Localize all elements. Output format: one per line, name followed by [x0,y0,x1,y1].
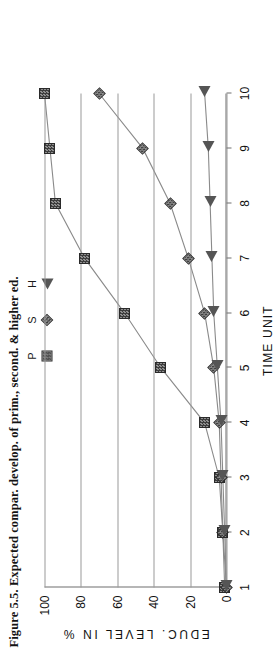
triangle-marker-icon [204,195,216,206]
legend-label-p: P [26,352,37,359]
x-axis-tick [226,202,231,203]
x-axis-tick [226,257,231,258]
data-point-h [202,142,214,153]
x-axis-tick-label: 7 [238,254,250,261]
plot-area: TIME UNIT EDUC. LEVEL IN % 0204060801001… [44,93,226,587]
x-axis-tick-label: 3 [238,474,250,481]
y-axis-tick-label: 40 [147,595,159,608]
square-marker-icon [49,197,60,208]
data-point-p [119,307,130,318]
square-marker-icon [199,417,210,428]
diamond-marker-icon [136,142,149,155]
data-point-h [205,252,217,263]
data-point-h [211,362,223,373]
x-axis-tick [226,312,231,313]
data-point-h [204,197,216,208]
x-axis-tick-label: 1 [238,584,250,591]
x-axis-tick-label: 10 [238,86,250,99]
y-gridline [226,93,227,587]
diamond-marker-icon [163,196,176,209]
square-marker-icon [79,252,90,263]
data-point-s [138,143,147,152]
x-axis-tick [226,147,231,148]
y-axis-title: EDUC. LEVEL IN % [61,626,210,640]
triangle-marker-icon [211,360,223,371]
triangle-marker-icon [207,305,219,316]
x-axis-tick-label: 2 [238,529,250,536]
series-lines [44,93,226,587]
square-marker-icon [119,307,130,318]
data-point-s [94,89,103,98]
y-axis-tick-label: 60 [111,595,123,608]
x-axis-tick [226,366,231,367]
data-point-p [39,88,50,99]
triangle-marker-icon [198,86,210,97]
x-axis-tick-label: 5 [238,364,250,371]
triangle-marker-icon [202,140,214,151]
triangle-marker-icon [218,525,230,536]
data-point-p [155,362,166,373]
x-axis-tick-label: 9 [238,145,250,152]
x-axis-tick-label: 8 [238,199,250,206]
triangle-marker-icon [205,250,217,261]
square-marker-icon [44,142,55,153]
legend-label-h: H [26,280,37,288]
figure-caption: Figure 5.5. Expected compar. develop. of… [6,276,21,647]
diamond-marker-icon [181,251,194,264]
data-point-h [220,582,232,593]
data-point-p [199,417,210,428]
x-axis-tick-label: 6 [238,309,250,316]
data-point-h [216,472,228,483]
square-marker-icon [155,362,166,373]
x-axis-tick-label: 4 [238,419,250,426]
x-axis-tick [226,92,231,93]
y-gridline [44,93,45,587]
data-point-h [198,88,210,99]
data-point-s [165,198,174,207]
y-axis-tick-label: 100 [38,595,50,615]
data-point-s [183,253,192,262]
data-point-h [207,307,219,318]
triangle-marker-icon [216,470,228,481]
y-gridline [190,93,191,587]
triangle-marker-icon [220,580,232,591]
y-axis-tick-label: 20 [184,595,196,608]
data-point-h [218,527,230,538]
y-gridline [117,93,118,587]
triangle-marker-icon [215,415,227,426]
series-line-p [44,93,224,587]
y-axis-tick-label: 0 [220,595,232,602]
x-axis-title: TIME UNIT [260,93,274,587]
legend-label-s: S [26,316,37,323]
y-gridline [153,93,154,587]
data-point-p [44,142,55,153]
y-axis-tick-label: 80 [74,595,86,608]
figure-container: Figure 5.5. Expected compar. develop. of… [0,0,275,653]
diamond-marker-icon [92,87,105,100]
data-point-h [215,417,227,428]
figure-rotated-canvas: Figure 5.5. Expected compar. develop. of… [0,0,275,653]
data-point-p [49,197,60,208]
square-marker-icon [39,88,50,99]
data-point-p [79,252,90,263]
y-gridline [80,93,81,587]
